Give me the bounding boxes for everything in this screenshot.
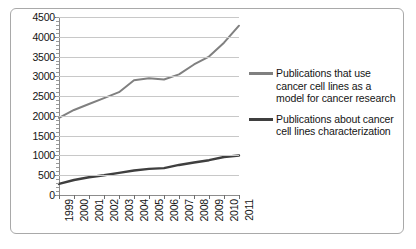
y-minor-tick xyxy=(56,144,59,145)
y-tick-label: 3500 xyxy=(32,51,55,63)
y-minor-tick xyxy=(56,53,59,54)
x-tick-label: 2003 xyxy=(123,199,135,222)
x-tick-label: 2006 xyxy=(168,199,180,222)
y-minor-tick xyxy=(56,140,59,141)
y-minor-tick xyxy=(56,116,59,117)
y-minor-tick xyxy=(56,92,59,93)
y-minor-tick xyxy=(56,108,59,109)
chart-frame: 050010001500200025003000350040004500 199… xyxy=(10,8,404,234)
x-tick xyxy=(179,195,180,199)
y-minor-tick xyxy=(56,49,59,50)
legend-label: Publications about cancer cell lines cha… xyxy=(276,113,399,138)
y-minor-tick xyxy=(56,17,59,18)
x-axis-tick-labels: 1999200020012002200320042005200620072008… xyxy=(59,199,239,235)
y-minor-tick xyxy=(56,136,59,137)
x-tick-label: 2001 xyxy=(93,199,105,222)
x-tick-label: 2010 xyxy=(228,199,240,222)
series-line xyxy=(59,155,239,183)
y-minor-tick xyxy=(56,171,59,172)
chart-legend: Publications that use cancer cell lines … xyxy=(249,67,399,146)
plot-area xyxy=(59,17,239,195)
x-tick-label: 2005 xyxy=(153,199,165,222)
gridline xyxy=(59,37,239,38)
y-minor-tick xyxy=(56,191,59,192)
y-minor-tick xyxy=(56,112,59,113)
y-minor-tick xyxy=(56,124,59,125)
x-tick xyxy=(119,195,120,199)
legend-line-swatch xyxy=(249,118,273,121)
gridline xyxy=(59,96,239,97)
x-tick-label: 2007 xyxy=(183,199,195,222)
x-tick xyxy=(134,195,135,199)
series-line xyxy=(59,26,239,118)
x-tick xyxy=(164,195,165,199)
legend-entry[interactable]: Publications about cancer cell lines cha… xyxy=(249,113,399,138)
y-minor-tick xyxy=(56,100,59,101)
gridline xyxy=(59,116,239,117)
legend-label: Publications that use cancer cell lines … xyxy=(276,67,399,105)
y-minor-tick xyxy=(56,61,59,62)
x-tick-label: 2004 xyxy=(138,199,150,222)
y-tick-label: 500 xyxy=(38,169,55,181)
x-tick xyxy=(89,195,90,199)
gridline xyxy=(59,76,239,77)
y-minor-tick xyxy=(56,132,59,133)
x-tick xyxy=(239,195,240,199)
x-tick-label: 2002 xyxy=(108,199,120,222)
y-minor-tick xyxy=(56,37,59,38)
y-minor-tick xyxy=(56,68,59,69)
series-lines xyxy=(59,17,239,195)
y-minor-tick xyxy=(56,41,59,42)
x-tick xyxy=(224,195,225,199)
x-tick-label: 2009 xyxy=(213,199,225,222)
y-axis-tick-labels: 050010001500200025003000350040004500 xyxy=(11,9,59,195)
y-tick-label: 2000 xyxy=(32,110,55,122)
y-tick-label: 1500 xyxy=(32,130,55,142)
legend-line-swatch xyxy=(249,72,273,75)
x-tick-label: 2000 xyxy=(78,199,90,222)
y-minor-tick xyxy=(56,187,59,188)
y-tick-label: 4000 xyxy=(32,31,55,43)
y-minor-tick xyxy=(56,179,59,180)
y-minor-tick xyxy=(56,80,59,81)
y-minor-tick xyxy=(56,84,59,85)
y-minor-tick xyxy=(56,148,59,149)
x-tick-label: 2008 xyxy=(198,199,210,222)
y-minor-tick xyxy=(56,175,59,176)
x-tick xyxy=(209,195,210,199)
y-minor-tick xyxy=(56,57,59,58)
y-minor-tick xyxy=(56,96,59,97)
y-minor-tick xyxy=(56,104,59,105)
y-minor-tick xyxy=(56,76,59,77)
gridline xyxy=(59,17,239,18)
y-minor-tick xyxy=(56,88,59,89)
x-tick-label: 2011 xyxy=(243,199,255,221)
y-minor-tick xyxy=(56,163,59,164)
y-minor-tick xyxy=(56,29,59,30)
y-minor-tick xyxy=(56,183,59,184)
x-tick xyxy=(59,195,60,199)
x-tick xyxy=(74,195,75,199)
y-minor-tick xyxy=(56,45,59,46)
y-tick-label: 3000 xyxy=(32,70,55,82)
y-minor-tick xyxy=(56,159,59,160)
y-minor-tick xyxy=(56,128,59,129)
legend-entry[interactable]: Publications that use cancer cell lines … xyxy=(249,67,399,105)
x-tick xyxy=(149,195,150,199)
gridline xyxy=(59,57,239,58)
chart-figure: 050010001500200025003000350040004500 199… xyxy=(0,0,416,249)
gridline xyxy=(59,175,239,176)
y-tick-label: 4500 xyxy=(32,11,55,23)
y-minor-tick xyxy=(56,155,59,156)
y-tick-label: 1000 xyxy=(32,149,55,161)
x-tick xyxy=(104,195,105,199)
y-minor-tick xyxy=(56,25,59,26)
gridline xyxy=(59,155,239,156)
y-minor-tick xyxy=(56,33,59,34)
y-minor-tick xyxy=(56,64,59,65)
y-minor-tick xyxy=(56,151,59,152)
y-tick-label: 2500 xyxy=(32,90,55,102)
y-minor-tick xyxy=(56,21,59,22)
y-minor-tick xyxy=(56,72,59,73)
y-minor-tick xyxy=(56,120,59,121)
